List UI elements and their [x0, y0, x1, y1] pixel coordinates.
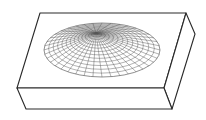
slab-front-face	[17, 88, 172, 109]
slab-with-mesh-diagram	[0, 0, 206, 120]
